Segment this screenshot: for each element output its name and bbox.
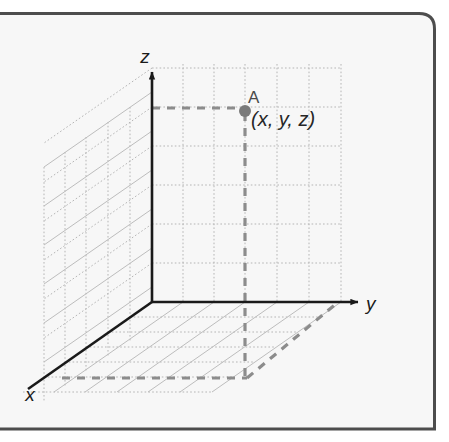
- point-a-coordinates: (x, y, z): [251, 108, 315, 130]
- panel-background: [0, 0, 449, 442]
- y-axis-label: y: [364, 293, 377, 314]
- figure-root: z y x A (x, y, z): [0, 0, 449, 442]
- point-a-label: A: [248, 88, 260, 107]
- z-axis-label: z: [139, 46, 150, 67]
- x-axis-label: x: [24, 384, 36, 405]
- coordinate-system-diagram: z y x A (x, y, z): [0, 0, 449, 442]
